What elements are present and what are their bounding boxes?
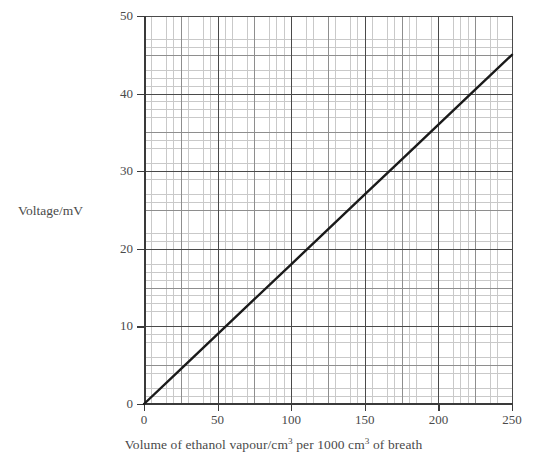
x-tick-50 (218, 404, 219, 411)
series-calibration-line (144, 55, 512, 404)
y-tick-10 (137, 326, 144, 327)
y-tick-label-30: 30 (120, 163, 133, 179)
y-tick-label-50: 50 (120, 8, 133, 24)
x-axis-title-part-3: of breath (370, 437, 423, 452)
major-gridline-x-250 (512, 16, 513, 404)
x-tick-150 (365, 404, 366, 411)
data-series-layer (144, 16, 512, 404)
y-tick-40 (137, 94, 144, 95)
x-tick-label-100: 100 (281, 412, 301, 428)
x-tick-label-250: 250 (502, 412, 522, 428)
x-axis-title-part-2: per 1000 cm (293, 437, 365, 452)
y-tick-label-10: 10 (120, 318, 133, 334)
y-axis-tick-labels: 01020304050 (0, 0, 133, 471)
y-tick-50 (137, 16, 144, 17)
x-axis-title: Volume of ethanol vapour/cm3 per 1000 cm… (0, 437, 547, 453)
x-axis-title-part-1: Volume of ethanol vapour/cm (125, 437, 288, 452)
y-axis-title: Voltage/mV (18, 203, 83, 219)
x-tick-200 (438, 404, 439, 411)
y-tick-30 (137, 171, 144, 172)
x-tick-label-50: 50 (211, 412, 224, 428)
x-tick-250 (512, 404, 513, 411)
x-tick-label-0: 0 (141, 412, 148, 428)
x-tick-100 (291, 404, 292, 411)
x-tick-label-150: 150 (355, 412, 375, 428)
x-tick-label-200: 200 (429, 412, 449, 428)
y-tick-label-0: 0 (127, 396, 134, 412)
y-tick-label-40: 40 (120, 86, 133, 102)
y-tick-label-20: 20 (120, 241, 133, 257)
chart-figure: 050100150200250 01020304050 Voltage/mV V… (0, 0, 547, 471)
y-tick-20 (137, 249, 144, 250)
